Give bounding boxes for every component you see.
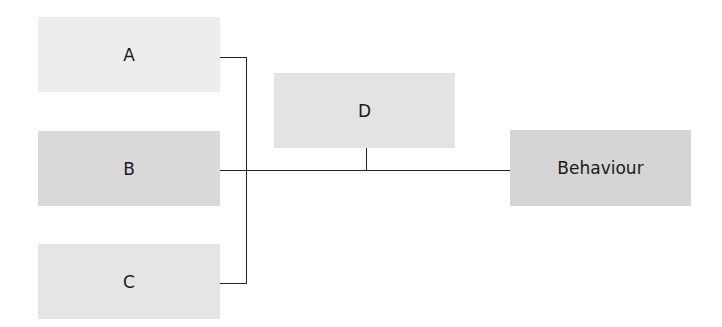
node-behaviour: Behaviour <box>510 130 691 206</box>
node-d-label: D <box>358 101 371 121</box>
node-c: C <box>38 244 220 319</box>
node-b-label: B <box>123 159 135 179</box>
node-a: A <box>38 17 220 92</box>
node-c-label: C <box>123 272 135 292</box>
connector-c <box>220 283 247 284</box>
node-b: B <box>38 131 220 206</box>
node-d: D <box>274 73 455 148</box>
connector-b-to-behaviour <box>220 170 510 171</box>
node-a-label: A <box>123 45 135 65</box>
connector-a <box>220 57 247 58</box>
connector-d <box>366 148 367 170</box>
node-behaviour-label: Behaviour <box>557 158 643 178</box>
